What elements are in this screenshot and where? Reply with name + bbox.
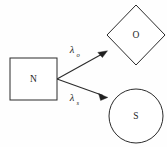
node-o-label: O — [133, 30, 140, 40]
node-n[interactable]: N — [10, 58, 57, 100]
node-s-label: S — [133, 111, 138, 121]
edge-n-to-s[interactable] — [57, 79, 108, 101]
node-s[interactable]: S — [109, 89, 163, 143]
edge-n-to-o-line — [57, 54, 103, 80]
diagram-svg: N O S λ o λ s — [0, 0, 167, 147]
edge-label-group: λ o λ s — [69, 44, 81, 106]
edge-label-lambda-s: λ s — [69, 92, 80, 106]
edge-n-to-s-arrowhead — [99, 94, 108, 101]
node-o[interactable]: O — [107, 5, 165, 65]
edge-label-lambda-s-symbol: λ — [69, 92, 75, 103]
edge-label-lambda-o-subscript: o — [77, 51, 81, 58]
edge-label-lambda-s-subscript: s — [77, 99, 80, 106]
node-group: N O S — [10, 5, 165, 143]
edge-label-lambda-o-symbol: λ — [69, 44, 75, 55]
node-n-label: N — [30, 74, 37, 84]
edge-label-lambda-o: λ o — [69, 44, 81, 58]
edge-n-to-o[interactable] — [57, 51, 108, 79]
edge-n-to-o-arrowhead — [98, 51, 108, 58]
edge-n-to-s-line — [57, 79, 103, 96]
edge-group — [57, 51, 108, 101]
diagram-canvas: N O S λ o λ s — [0, 0, 167, 147]
